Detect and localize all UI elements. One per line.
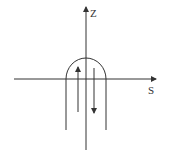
diagram-canvas: Z S	[0, 0, 170, 161]
z-axis-label: Z	[90, 7, 97, 19]
s-axis-label: S	[148, 84, 154, 96]
